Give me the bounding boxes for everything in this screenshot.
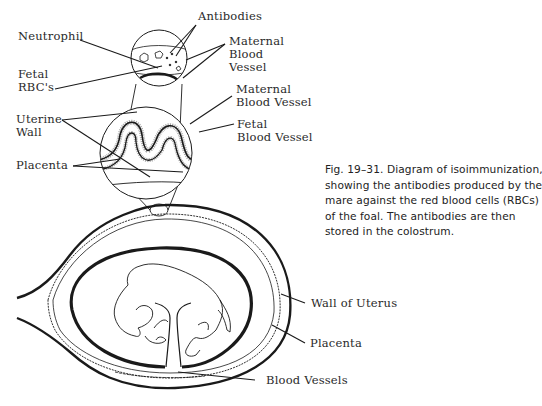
label-line: RBC's: [18, 81, 54, 94]
uterus-drawing: [17, 205, 290, 388]
foal-drawing: [114, 264, 230, 356]
caption-line: showing the antibodies produced by the: [325, 178, 540, 194]
label-wall-of-uterus: Wall of Uterus: [311, 297, 397, 310]
leader-lines: [55, 25, 305, 380]
label-line: Wall: [16, 126, 62, 139]
caption-line: Fig. 19–31. Diagram of isoimmunization,: [325, 162, 540, 178]
caption-line: mare against the red blood cells (RBCs): [325, 193, 540, 209]
caption-line: stored in the colostrum.: [325, 224, 540, 240]
caption-line: of the foal. The antibodies are then: [325, 209, 540, 225]
label-neutrophil: Neutrophil: [18, 30, 83, 43]
label-placenta-lower: Placenta: [310, 337, 362, 350]
label-blood-vessels: Blood Vessels: [266, 374, 348, 387]
label-uterine-wall: Uterine Wall: [16, 113, 62, 139]
label-line: Blood Vessel: [236, 96, 312, 109]
label-fetal-rbcs: Fetal RBC's: [18, 68, 54, 94]
label-antibodies: Antibodies: [198, 10, 262, 23]
blood-cells-magnified-circle: [131, 30, 188, 86]
label-maternal-blood-vessel-mid: Maternal Blood Vessel: [236, 83, 312, 109]
label-placenta-upper: Placenta: [16, 159, 68, 172]
label-fetal-blood-vessel: Fetal Blood Vessel: [237, 118, 313, 144]
label-line: Blood Vessel: [237, 131, 313, 144]
label-maternal-blood-vessel-top: Maternal Blood Vessel: [229, 35, 284, 74]
label-line: Vessel: [229, 61, 284, 74]
figure-caption: Fig. 19–31. Diagram of isoimmunization, …: [325, 162, 540, 240]
